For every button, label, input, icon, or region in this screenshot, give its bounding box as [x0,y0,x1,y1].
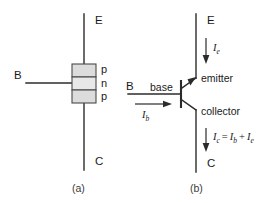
ib-subscript: b [146,114,150,123]
panel-a-emitter-label: E [95,15,103,27]
ic-plus-operator: + [237,131,247,142]
panel-b-base-current-label: Ib [142,110,149,123]
panel-b-emitter-role-label: emitter [201,73,233,84]
figure-canvas [0,0,273,203]
panel-a-diagram [26,14,96,170]
panel-b-collector-diagonal [182,100,196,110]
panel-b-base-label: B [126,81,134,93]
panel-a-caption: (a) [72,183,85,194]
panel-a-collector-label: C [95,156,103,168]
panel-a-base-label: B [14,70,22,82]
panel-b-emitter-current-label: Ie [213,43,220,56]
panel-b-ic-arrowhead [203,143,210,152]
ic-term2-subscript: e [250,136,253,145]
panel-b-emitter-label: E [207,15,215,27]
panel-b-collector-label: C [207,158,215,170]
panel-b-collector-role-label: collector [201,106,240,117]
panel-a-layer-n-middle [72,77,96,90]
transistor-figure: E B C p n p (a) E B C base emitter colle… [0,0,273,203]
panel-a-layer-label-p-bottom: p [101,91,107,102]
panel-b-emitter-arrowhead [188,77,197,86]
panel-b-caption: (b) [190,183,203,194]
ie-subscript: e [217,47,220,56]
panel-b-base-role-label: base [150,82,173,93]
ic-equals-operator: = [220,131,230,142]
panel-a-layer-label-n-middle: n [101,78,107,89]
panel-a-layer-label-p-top: p [101,64,107,75]
panel-b-diagram [128,14,209,172]
panel-a-layer-p-top [72,64,96,77]
panel-a-layer-p-bottom [72,90,96,103]
panel-b-collector-current-equation: Ic=Ib+Ie [213,132,254,145]
panel-b-ib-arrowhead [163,101,172,107]
panel-b-ie-arrowhead [203,55,210,64]
